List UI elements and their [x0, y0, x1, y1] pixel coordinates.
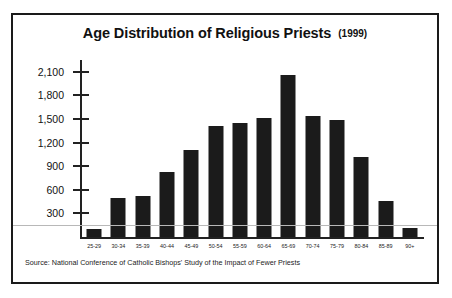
- x-axis-tick-label: 75-79: [330, 243, 344, 249]
- bar: [257, 118, 272, 237]
- x-axis-tick-label: 70-74: [306, 243, 320, 249]
- bar-group: 75-79: [325, 60, 349, 237]
- x-axis-tick-label: 85-89: [379, 243, 393, 249]
- bar: [329, 120, 344, 237]
- source-note: Source: National Conference of Catholic …: [25, 258, 300, 267]
- x-axis-tick-label: 35-39: [136, 243, 150, 249]
- bar: [184, 150, 199, 237]
- chart-title: Age Distribution of Religious Priests(19…: [13, 24, 437, 42]
- bar-group: 25-29: [82, 60, 106, 237]
- bar-group: 45-49: [179, 60, 203, 237]
- bar: [159, 172, 174, 237]
- bar: [208, 126, 223, 237]
- y-axis-tick-label: 600: [46, 184, 64, 196]
- x-axis-tick-label: 40-44: [160, 243, 174, 249]
- bar: [281, 75, 296, 237]
- x-axis-tick-label: 65-69: [282, 243, 296, 249]
- x-axis-tick-label: 55-59: [233, 243, 247, 249]
- bar-group: 70-74: [301, 60, 325, 237]
- bar-group: 65-69: [276, 60, 300, 237]
- bar-group: 40-44: [155, 60, 179, 237]
- x-axis-tick-label: 60-64: [257, 243, 271, 249]
- y-axis-tick-label: 300: [46, 207, 64, 219]
- bar-group: 30-34: [106, 60, 130, 237]
- bar: [135, 196, 150, 237]
- bar-group: 50-54: [203, 60, 227, 237]
- bar-group: 85-89: [373, 60, 397, 237]
- x-axis-tick-label: 80-84: [354, 243, 368, 249]
- bar-series: 25-2930-3435-3940-4445-4950-5455-5960-64…: [82, 60, 422, 237]
- x-axis-tick-label: 30-34: [112, 243, 126, 249]
- y-axis-tick-label: 1,800: [38, 89, 64, 101]
- x-axis-tick-label: 25-29: [87, 243, 101, 249]
- y-axis-tick-label: 900: [46, 160, 64, 172]
- bar: [232, 123, 247, 237]
- x-axis-tick-label: 45-49: [184, 243, 198, 249]
- bar-group: 80-84: [349, 60, 373, 237]
- bar-group: 60-64: [252, 60, 276, 237]
- page-title: Age Distribution of Religious Priests: [83, 25, 331, 41]
- source-divider: [13, 225, 437, 226]
- bar: [402, 228, 417, 237]
- y-axis-tick-label: 2,100: [38, 66, 64, 78]
- x-axis-tick-label: 90+: [405, 243, 414, 249]
- bar-group: 55-59: [228, 60, 252, 237]
- plot-area: 3006009001,2001,5001,8002,100 25-2930-34…: [35, 60, 427, 243]
- y-axis-tick-label: 1,500: [38, 113, 64, 125]
- x-axis-line: [80, 237, 424, 239]
- bar: [111, 198, 126, 237]
- bar-group: 35-39: [131, 60, 155, 237]
- bar: [305, 116, 320, 237]
- y-axis-tick-label: 1,200: [38, 137, 64, 149]
- bar: [378, 201, 393, 237]
- title-year: (1999): [338, 28, 367, 39]
- chart-page: Age Distribution of Religious Priests(19…: [0, 0, 452, 298]
- bar-group: 90+: [398, 60, 422, 237]
- chart-frame: Age Distribution of Religious Priests(19…: [11, 13, 439, 284]
- bar: [87, 229, 102, 237]
- x-axis-tick-label: 50-54: [209, 243, 223, 249]
